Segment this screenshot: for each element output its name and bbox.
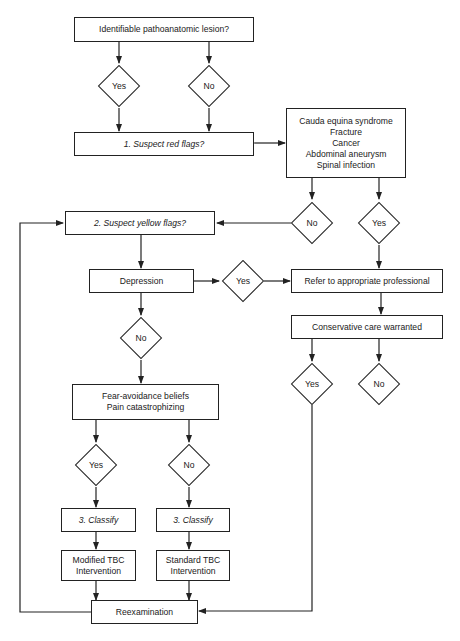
label: No: [136, 333, 147, 343]
conservative-care-box: Conservative care warranted: [291, 315, 443, 339]
fear-avoidance-box: Fear-avoidance beliefs Pain catastrophiz…: [72, 384, 219, 420]
red-no-diamond: No: [290, 201, 334, 245]
reexamination-box: Reexamination: [91, 600, 198, 624]
fear-line: Pain catastrophizing: [107, 402, 184, 413]
depression-yes-diamond: Yes: [221, 259, 265, 303]
red-yes-diamond: Yes: [357, 201, 401, 245]
standard-line: Intervention: [171, 566, 216, 577]
red-flag-item: Cauda equina syndrome: [299, 116, 393, 127]
lesion-no-diamond: No: [187, 64, 231, 108]
modified-tbc-box: Modified TBC Intervention: [61, 550, 136, 581]
red-flag-list-box: Cauda equina syndrome Fracture Cancer Ab…: [286, 108, 406, 178]
classify-right-box: 3. Classify: [156, 508, 230, 532]
label: Yes: [305, 379, 319, 389]
modified-line: Intervention: [76, 566, 121, 577]
conservative-yes-diamond: Yes: [290, 362, 334, 406]
refer-box: Refer to appropriate professional: [291, 269, 443, 293]
red-flag-item: Spinal infection: [317, 160, 375, 171]
red-flag-item: Cancer: [332, 138, 360, 149]
lesion-yes-diamond: Yes: [97, 64, 141, 108]
red-flag-item: Fracture: [330, 127, 362, 138]
yellow-flags-box: 2. Suspect yellow flags?: [65, 211, 215, 235]
label: No: [374, 379, 385, 389]
standard-line: Standard TBC: [166, 555, 220, 566]
modified-line: Modified TBC: [73, 555, 125, 566]
standard-tbc-box: Standard TBC Intervention: [156, 550, 230, 581]
depression-box: Depression: [89, 269, 194, 293]
fear-line: Fear-avoidance beliefs: [102, 391, 189, 402]
fear-no-diamond: No: [167, 443, 211, 487]
label: Yes: [372, 218, 386, 228]
fear-yes-diamond: Yes: [74, 443, 118, 487]
label: Yes: [236, 276, 250, 286]
conservative-no-diamond: No: [357, 362, 401, 406]
classify-left-box: 3. Classify: [61, 508, 136, 532]
depression-no-diamond: No: [119, 316, 163, 360]
label: No: [307, 218, 318, 228]
label: No: [184, 460, 195, 470]
red-flag-item: Abdominal aneurysm: [306, 149, 387, 160]
lesion-question-box: Identifiable pathoanatomic lesion?: [74, 17, 254, 42]
label: No: [204, 81, 215, 91]
label: Yes: [112, 81, 126, 91]
label: Yes: [89, 460, 103, 470]
red-flags-box: 1. Suspect red flags?: [74, 132, 254, 156]
